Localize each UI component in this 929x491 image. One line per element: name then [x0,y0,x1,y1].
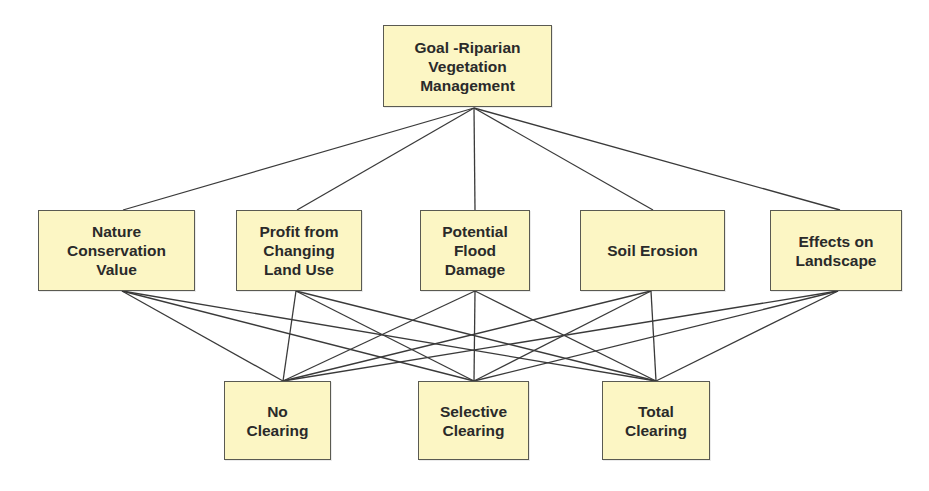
alternative-no-clearing: No Clearing [224,381,331,460]
edge-goal-erosion [474,108,653,210]
criterion-potential-flood-damage: Potential Flood Damage [420,210,530,291]
edge-landscape-total_clearing [656,291,838,381]
edge-landscape-no_clearing [283,291,838,381]
alternative-total-clearing: Total Clearing [602,381,710,460]
edge-goal-nature [123,108,474,210]
criterion-profit-from-changing-land-use: Profit from Changing Land Use [236,210,362,291]
alternative-selective-clearing: Selective Clearing [418,381,529,460]
edge-goal-flood [474,108,475,210]
criterion-nature-conservation-value: Nature Conservation Value [38,210,195,291]
edge-goal-landscape [474,108,840,210]
ahp-hierarchy-diagram: Goal -Riparian Vegetation Management Nat… [0,0,929,491]
edge-profit-no_clearing [283,291,296,381]
edge-flood-total_clearing [475,291,656,381]
edge-goal-profit [297,108,474,210]
edge-profit-total_clearing [296,291,656,381]
criterion-soil-erosion: Soil Erosion [580,210,725,291]
goal-node: Goal -Riparian Vegetation Management [383,25,552,107]
edge-landscape-selective_clearing [474,291,838,381]
criterion-effects-on-landscape: Effects on Landscape [770,210,902,291]
edge-nature-selective_clearing [122,291,474,381]
edge-erosion-no_clearing [283,291,651,381]
edge-flood-selective_clearing [474,291,475,381]
